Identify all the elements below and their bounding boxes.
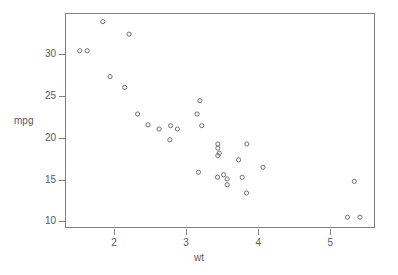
data-point [352, 179, 356, 183]
y-axis-tick-label: 15 [45, 175, 56, 185]
y-axis-tick-label: 10 [45, 216, 56, 226]
x-axis-tick-mark [186, 229, 187, 235]
data-point [237, 158, 241, 162]
y-axis-tick-label: 30 [45, 49, 56, 59]
data-point [136, 112, 140, 116]
data-point [175, 127, 179, 131]
data-point [146, 123, 150, 127]
data-point [225, 183, 229, 187]
data-point [216, 146, 220, 150]
scatter-plot-figure: mpg wt 1015202530 2345 [0, 0, 398, 275]
data-point [200, 124, 204, 128]
data-point [216, 142, 220, 146]
data-point [108, 74, 112, 78]
data-point [244, 191, 248, 195]
data-point [195, 112, 199, 116]
data-point [345, 215, 349, 219]
data-point [221, 173, 225, 177]
data-point [245, 142, 249, 146]
y-axis-tick-label: 20 [45, 133, 56, 143]
y-axis-title: mpg [14, 116, 33, 126]
data-point [168, 138, 172, 142]
x-axis-tick-label: 4 [255, 238, 261, 248]
x-axis-tick-mark [330, 229, 331, 235]
y-axis-tick-label: 25 [45, 91, 56, 101]
x-axis-tick-mark [114, 229, 115, 235]
data-points-layer [66, 14, 374, 227]
data-point [78, 49, 82, 53]
data-point [101, 20, 105, 24]
data-point [196, 170, 200, 174]
data-point [157, 127, 161, 131]
data-point [215, 175, 219, 179]
data-point [168, 124, 172, 128]
data-point [127, 32, 131, 36]
plot-panel [65, 13, 375, 228]
data-point [261, 165, 265, 169]
data-point [225, 177, 229, 181]
data-point [123, 85, 127, 89]
data-point [358, 215, 362, 219]
x-axis-tick-label: 3 [183, 238, 189, 248]
data-point [85, 49, 89, 53]
x-axis-tick-label: 2 [111, 238, 117, 248]
data-point [240, 175, 244, 179]
x-axis-tick-label: 5 [328, 238, 334, 248]
x-axis-title: wt [0, 253, 398, 263]
data-point [198, 99, 202, 103]
x-axis-tick-mark [258, 229, 259, 235]
